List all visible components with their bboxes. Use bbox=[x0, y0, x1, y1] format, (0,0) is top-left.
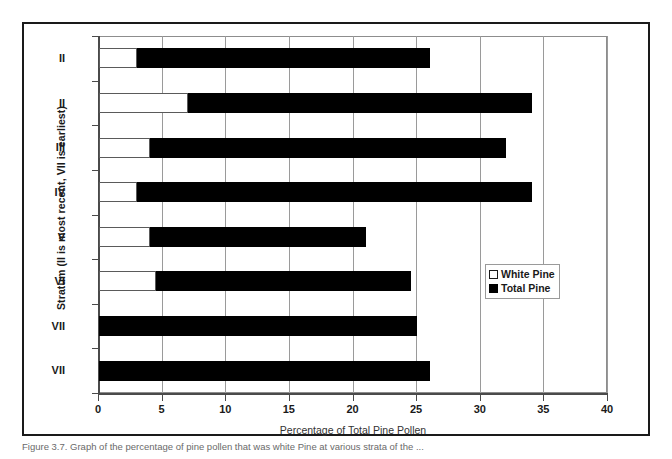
bar-white-pine bbox=[99, 138, 150, 158]
white-square-icon bbox=[489, 270, 498, 279]
x-tick bbox=[289, 395, 290, 401]
black-square-icon bbox=[489, 284, 498, 293]
x-tick-label: 0 bbox=[78, 403, 118, 415]
bar-row: III bbox=[24, 125, 648, 170]
y-tick-label: II bbox=[25, 81, 65, 126]
figure-frame: Stratum (II is most recent, VII is earli… bbox=[22, 22, 650, 436]
x-tick-label: 15 bbox=[269, 403, 309, 415]
x-tick bbox=[607, 395, 608, 401]
y-tick bbox=[92, 215, 98, 216]
y-tick-label: VII bbox=[25, 304, 65, 349]
bar-group bbox=[99, 182, 608, 202]
bar-row: VII bbox=[24, 348, 648, 393]
y-tick-label: IV bbox=[25, 170, 65, 215]
y-tick bbox=[92, 36, 98, 37]
x-tick bbox=[480, 395, 481, 401]
y-tick bbox=[92, 393, 98, 394]
x-tick-label: 20 bbox=[333, 403, 373, 415]
bar-group bbox=[99, 48, 608, 68]
y-tick bbox=[92, 348, 98, 349]
x-tick-label: 35 bbox=[523, 403, 563, 415]
bar-row: VII bbox=[24, 304, 648, 349]
bar-total-pine bbox=[99, 48, 430, 68]
bar-total-pine bbox=[99, 182, 532, 202]
bar-group bbox=[99, 93, 608, 113]
y-tick bbox=[92, 304, 98, 305]
y-tick bbox=[92, 81, 98, 82]
x-tick bbox=[225, 395, 226, 401]
bar-group bbox=[99, 138, 608, 158]
bar-row: IV bbox=[24, 170, 648, 215]
x-tick bbox=[162, 395, 163, 401]
x-tick-label: 25 bbox=[396, 403, 436, 415]
chart-legend: White Pine Total Pine bbox=[485, 264, 560, 299]
y-tick-label: II bbox=[25, 36, 65, 81]
y-tick bbox=[92, 259, 98, 260]
bar-white-pine bbox=[99, 182, 137, 202]
legend-item-total-pine: Total Pine bbox=[489, 281, 555, 295]
y-tick-label: VII bbox=[25, 348, 65, 393]
x-tick bbox=[543, 395, 544, 401]
y-tick bbox=[92, 125, 98, 126]
x-tick bbox=[98, 395, 99, 401]
y-tick bbox=[92, 170, 98, 171]
bar-row: II bbox=[24, 81, 648, 126]
x-tick-label: 5 bbox=[142, 403, 182, 415]
legend-label: Total Pine bbox=[501, 282, 550, 294]
legend-label: White Pine bbox=[501, 268, 555, 280]
bar-total-pine bbox=[99, 138, 506, 158]
bar-white-pine bbox=[99, 48, 137, 68]
x-tick bbox=[353, 395, 354, 401]
y-tick-label: VI bbox=[25, 259, 65, 304]
y-tick-label: V bbox=[25, 215, 65, 260]
bar-total-pine bbox=[99, 316, 417, 336]
bar-row: II bbox=[24, 36, 648, 81]
legend-item-white-pine: White Pine bbox=[489, 267, 555, 281]
bar-total-pine bbox=[99, 361, 430, 381]
x-tick-label: 10 bbox=[205, 403, 245, 415]
x-axis-title: Percentage of Total Pine Pollen bbox=[98, 424, 608, 436]
bar-white-pine bbox=[99, 227, 150, 247]
bar-group bbox=[99, 361, 608, 381]
x-tick-label: 30 bbox=[460, 403, 500, 415]
x-tick bbox=[416, 395, 417, 401]
bar-group bbox=[99, 227, 608, 247]
bar-white-pine bbox=[99, 271, 156, 291]
y-tick-label: III bbox=[25, 125, 65, 170]
bar-row: V bbox=[24, 215, 648, 260]
x-tick-label: 40 bbox=[587, 403, 627, 415]
figure-caption: Figure 3.7. Graph of the percentage of p… bbox=[22, 441, 642, 459]
bar-white-pine bbox=[99, 93, 188, 113]
bar-group bbox=[99, 316, 608, 336]
